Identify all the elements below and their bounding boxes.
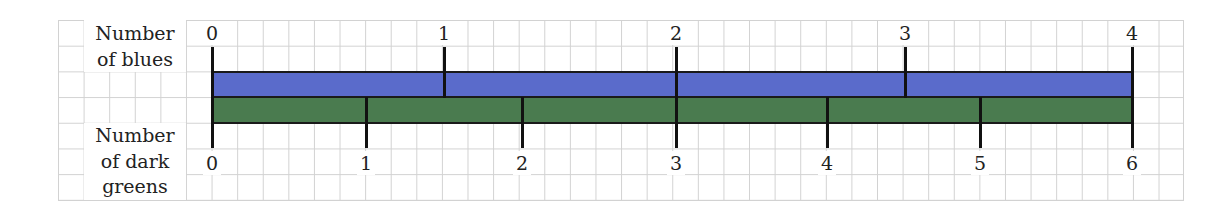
blues-axis-label: Number of blues [84,20,186,72]
green-tick-label-0: 0 [203,151,221,175]
green-tick-label-3: 3 [667,151,685,175]
greens-label-line-2: of dark [84,149,186,175]
blue-tick-label-2: 2 [667,21,685,45]
tick-blue-1 [443,47,446,98]
greens-label-line-3: greens [84,174,186,200]
dark-greens-tape-bar [211,96,1134,124]
tick-middle-shared [675,47,678,148]
blues-label-line-2: of blues [84,46,186,72]
blues-tape-bar [211,71,1134,98]
greens-label-line-1: Number [84,123,186,149]
blue-tick-label-3: 3 [896,21,914,45]
green-tick-label-1: 1 [357,151,375,175]
double-number-line-diagram: Number of blues Number of dark greens 0 … [0,0,1230,207]
green-tick-label-4: 4 [818,151,836,175]
blue-tick-label-0: 0 [203,21,221,45]
tick-zero-shared [211,47,214,148]
dark-greens-axis-label: Number of dark greens [84,123,186,200]
blue-tick-label-4: 4 [1123,21,1141,45]
tick-green-5 [979,97,982,148]
tick-green-2 [521,97,524,148]
tick-blue-3 [904,47,907,98]
tick-end-shared [1131,47,1134,148]
blue-tick-label-1: 1 [435,21,453,45]
green-tick-label-2: 2 [513,151,531,175]
green-tick-label-6: 6 [1123,151,1141,175]
tick-green-1 [365,97,368,148]
tick-green-4 [826,97,829,148]
blues-label-line-1: Number [84,20,186,46]
green-tick-label-5: 5 [971,151,989,175]
